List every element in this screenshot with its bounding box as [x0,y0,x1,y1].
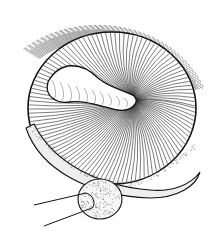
illustration [0,0,213,233]
membrane-illustration [0,0,213,233]
